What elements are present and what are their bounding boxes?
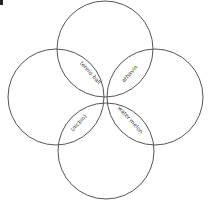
circle-bottom [58,103,154,199]
label-top-right: athavin [120,64,139,84]
label-bottom-left: (nicbio) [69,113,87,132]
venn-svg: tennis ball athavin water melon (nicbio) [0,0,208,208]
circle-left [8,49,104,145]
circle-top [57,1,153,97]
corner-mark [0,0,3,5]
venn-diagram: tennis ball athavin water melon (nicbio) [0,0,208,208]
circle-right [107,49,203,145]
